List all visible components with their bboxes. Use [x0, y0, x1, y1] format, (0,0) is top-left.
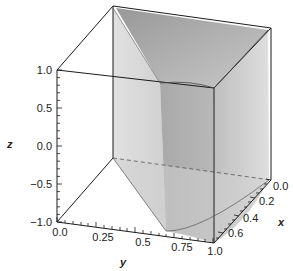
z-axis-label: z: [6, 138, 13, 150]
plot-canvas: 1.0 0.5 0.0 −0.5 −1.0 z 0.0 0.25 0.5 0.7…: [0, 0, 293, 271]
y-tick-label: 0.5: [135, 236, 150, 248]
y-tick-label: 1.0: [207, 245, 222, 257]
x-axis-label: x: [277, 216, 285, 228]
z-tick-label: −1.0: [30, 216, 52, 228]
z-tick-label: 0.5: [37, 102, 52, 114]
y-tick-label: 0.0: [52, 226, 67, 238]
z-tick-label: 1.0: [37, 64, 52, 76]
y-axis-label: y: [119, 256, 127, 268]
y-tick-label: 0.75: [171, 241, 192, 253]
x-tick-label: 0.0: [273, 180, 288, 192]
x-tick-label: 0.4: [243, 212, 258, 224]
box-edge: [57, 6, 113, 70]
y-tick-label: 0.25: [92, 231, 113, 243]
x-tick-label: 0.6: [228, 227, 243, 239]
z-tick-label: 0.0: [37, 140, 52, 152]
x-tick-label: 0.2: [259, 195, 274, 207]
box-edge: [57, 158, 113, 222]
z-tick-label: −0.5: [30, 178, 52, 190]
z-axis-ticks: [57, 70, 62, 222]
